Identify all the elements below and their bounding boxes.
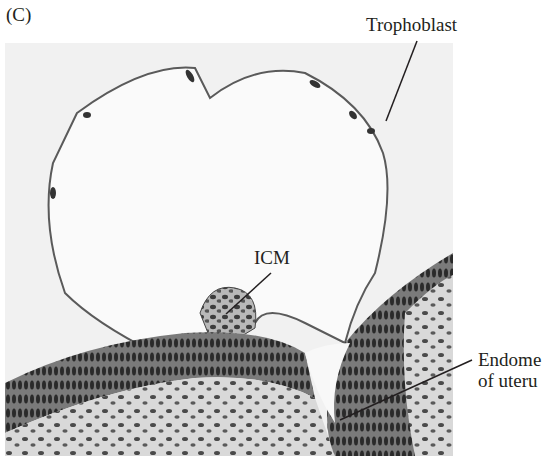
endometrium-label-line1: Endome [478, 349, 541, 371]
endometrium-label-line2: of uteru [478, 370, 538, 392]
trophoblast-label: Trophoblast [366, 14, 457, 36]
figure-panel-label: (C) [6, 4, 31, 26]
icm-label: ICM [254, 247, 290, 269]
histology-micrograph [5, 43, 453, 456]
